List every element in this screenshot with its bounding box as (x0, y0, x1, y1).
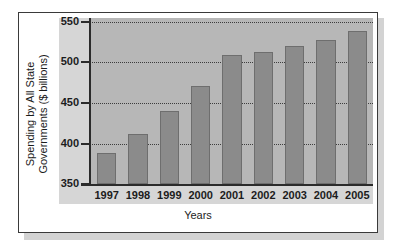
bar-2000[interactable] (191, 86, 210, 184)
y-axis-title: Spending by All State Governments ($ bil… (24, 26, 50, 202)
xtick-label-1999: 1999 (154, 189, 185, 201)
ytick-label-350: 350 (45, 178, 79, 189)
xtick-label-2000: 2000 (185, 189, 216, 201)
bar-chart: 550 500 450 400 350 1997 1998 1999 2000 … (19, 13, 377, 232)
bar-2003[interactable] (285, 46, 304, 184)
bar-1999[interactable] (160, 111, 179, 184)
bar-2001[interactable] (222, 55, 241, 184)
xtick-label-1997: 1997 (91, 189, 122, 201)
y-axis-title-line1: Spending by All State (24, 26, 37, 202)
xtick-label-1998: 1998 (122, 189, 153, 201)
gridline-550 (89, 22, 373, 23)
chart-figure-frame: 550 500 450 400 350 1997 1998 1999 2000 … (18, 12, 378, 233)
bar-1998[interactable] (128, 134, 147, 184)
y-axis-line (89, 18, 91, 185)
xtick-label-2005: 2005 (342, 189, 373, 201)
bar-2005[interactable] (348, 31, 367, 184)
y-axis-title-line2: Governments ($ billions) (37, 26, 50, 202)
bar-1997[interactable] (97, 153, 116, 184)
xtick-label-2003: 2003 (279, 189, 310, 201)
ytick-label-450: 450 (45, 97, 79, 108)
bar-2004[interactable] (316, 40, 335, 184)
xtick-label-2001: 2001 (216, 189, 247, 201)
ytick-label-500: 500 (45, 56, 79, 67)
x-axis-line (81, 184, 373, 186)
x-axis-title: Years (19, 209, 377, 222)
bar-2002[interactable] (254, 52, 273, 184)
xtick-label-2002: 2002 (248, 189, 279, 201)
xtick-label-2004: 2004 (310, 189, 341, 201)
ytick-label-400: 400 (45, 138, 79, 149)
ytick-label-550: 550 (45, 16, 79, 27)
